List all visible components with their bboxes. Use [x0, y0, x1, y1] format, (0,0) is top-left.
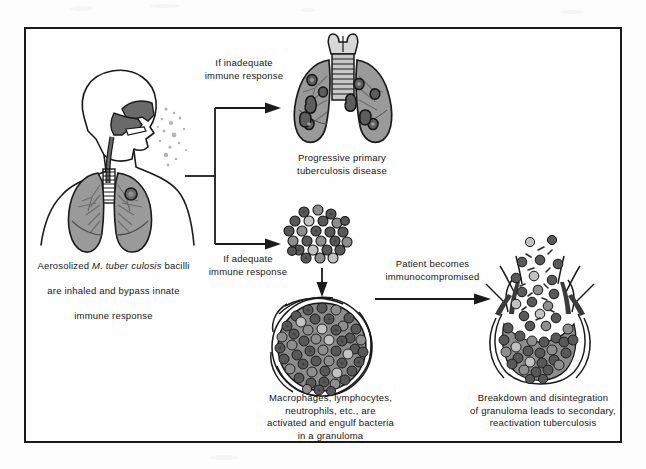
ruptured-granuloma: [478, 232, 602, 392]
lungs-caption: Progressive primary tuberculosis disease: [262, 152, 422, 177]
granuloma-to-reactivation-arrow: [375, 292, 493, 306]
scan-artifact: [150, 4, 180, 8]
diagram-page: Aerosolized M. tuber culosis bacilli are…: [0, 0, 646, 469]
scan-artifact: [300, 8, 316, 12]
trachea: [332, 54, 354, 100]
scan-artifact: [70, 6, 92, 11]
granuloma-caption: Macrophages, lymphocytes, neutrophils, e…: [243, 392, 418, 442]
aerosol-droplets: [157, 107, 187, 166]
human-torso-with-lungs: [26, 55, 201, 245]
body-caption-line1-pre: Aerosolized: [37, 260, 92, 271]
intact-granuloma: [263, 292, 381, 400]
arrowhead-bottom: [265, 239, 281, 250]
scan-artifact: [210, 455, 238, 460]
body-caption-line2: are inhaled and bypass innate: [47, 285, 179, 296]
reactivation-caption: Breakdown and disintegration of granulom…: [448, 392, 638, 430]
species-name: M. tuber culosis: [92, 260, 162, 271]
immune-cell-cluster: [283, 205, 355, 267]
trachea-rings: [103, 172, 115, 200]
branch-connector: [185, 100, 290, 255]
progressive-primary-tb-lungs: [285, 32, 401, 148]
body-caption-line3: immune response: [74, 310, 152, 321]
scan-artifact: [560, 10, 584, 14]
lung-right: [115, 173, 152, 252]
arrowhead-top: [265, 103, 281, 114]
body-caption: Aerosolized M. tuber culosis bacilli are…: [16, 247, 211, 323]
remnant-cells: [499, 323, 578, 384]
cells: [284, 205, 352, 263]
